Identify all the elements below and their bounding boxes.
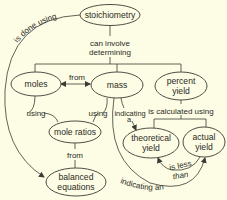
label-using-left: using: [26, 109, 45, 118]
label-from-ratios: from: [67, 151, 83, 160]
label-is-calculated-using: is calculated using: [148, 107, 213, 116]
svg-text:theoretical: theoretical: [131, 133, 171, 143]
label-using-right: using: [88, 109, 107, 118]
node-theoretical-yield: theoretical yield: [123, 128, 179, 158]
link-labels: is done using can involve determining fr…: [12, 12, 214, 192]
edge-mass-indicating: [121, 98, 124, 108]
concept-map: is done using can involve determining fr…: [0, 0, 227, 200]
svg-text:percent: percent: [167, 76, 196, 86]
label-than: than: [172, 170, 189, 182]
svg-text:equations: equations: [57, 182, 94, 192]
label-from-moles-mass: from: [69, 73, 85, 82]
label-is-done-using: is done using: [12, 12, 57, 45]
svg-text:yield: yield: [195, 142, 213, 152]
label-can-involve: can involve: [90, 39, 131, 48]
node-actual-yield: actual yield: [183, 127, 225, 157]
node-mole-ratios: mole ratios: [49, 121, 101, 143]
node-percent-yield: percent yield: [155, 72, 207, 100]
svg-text:yield: yield: [142, 143, 160, 153]
edge-using-ratios: [44, 113, 58, 122]
node-mass: mass: [91, 72, 143, 98]
edge-indicating-theoretical: [132, 121, 136, 130]
svg-text:moles: moles: [25, 79, 48, 89]
node-moles: moles: [11, 72, 61, 96]
node-balanced-equations: balanced equations: [46, 168, 106, 196]
svg-text:mass: mass: [107, 80, 128, 90]
svg-text:actual: actual: [193, 132, 216, 142]
node-stoichiometry: stoichiometry: [80, 5, 140, 26]
label-determining: determining: [89, 48, 131, 57]
svg-text:stoichiometry: stoichiometry: [85, 10, 136, 20]
svg-text:yield: yield: [172, 86, 190, 96]
label-indicating-an: indicating an: [119, 176, 164, 192]
svg-text:balanced: balanced: [59, 172, 94, 182]
svg-text:mole ratios: mole ratios: [54, 127, 96, 137]
